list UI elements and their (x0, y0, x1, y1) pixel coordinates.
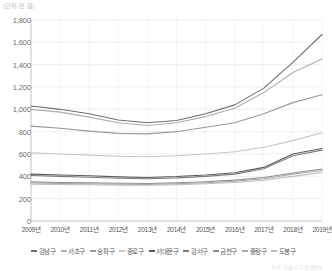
legend-label: 금천구 (220, 246, 237, 256)
x-axis-tick-label: 2012년 (109, 224, 128, 234)
legend-line-icon (119, 250, 125, 251)
legend-item[interactable]: 강남구 (31, 246, 55, 256)
legend-line-icon (90, 250, 96, 251)
x-axis-tick-label: 2010년 (51, 224, 70, 234)
legend-label: 강남구 (39, 246, 56, 256)
legend-label: 종로구 (127, 246, 144, 256)
legend-item[interactable]: 서초구 (61, 246, 85, 256)
legend-item[interactable]: 강서구 (183, 246, 207, 256)
x-axis-tick-label: 2019년 (312, 224, 331, 234)
legend-line-icon (271, 250, 277, 251)
legend-label: 서초구 (68, 246, 85, 256)
legend-line-icon (183, 250, 189, 251)
x-axis-tick-label: 2009년 (21, 224, 40, 234)
chart-legend: 강남구서초구송파구종로구서대문구강서구금천구중랑구도봉구 (0, 244, 327, 258)
x-axis-tick-label: 2018년 (283, 224, 302, 234)
source-label: 자료: 서울시 부동산정보 (271, 263, 323, 270)
x-axis-tick-label: 2017년 (254, 224, 273, 234)
x-axis-tick-label: 2014년 (167, 224, 186, 234)
legend-item[interactable]: 서대문구 (149, 246, 179, 256)
x-axis-ticks: 2009년2010년2011년2012년2013년2014년2015년2016년… (0, 224, 327, 236)
legend-line-icon (149, 250, 155, 251)
legend-line-icon (213, 250, 219, 251)
legend-item[interactable]: 중랑구 (242, 246, 266, 256)
legend-label: 송파구 (97, 246, 114, 256)
x-axis-tick-label: 2011년 (80, 224, 99, 234)
legend-line-icon (61, 250, 67, 251)
legend-item[interactable]: 금천구 (213, 246, 237, 256)
legend-line-icon (31, 250, 37, 251)
legend-label: 서대문구 (156, 246, 178, 256)
legend-label: 도봉구 (279, 246, 296, 256)
x-axis-tick-label: 2015년 (196, 224, 215, 234)
x-axis-tick-label: 2013년 (138, 224, 157, 234)
legend-item[interactable]: 도봉구 (271, 246, 295, 256)
legend-label: 중랑구 (250, 246, 267, 256)
legend-item[interactable]: 종로구 (119, 246, 143, 256)
legend-line-icon (242, 250, 248, 251)
x-axis-tick-label: 2016년 (225, 224, 244, 234)
legend-item[interactable]: 송파구 (90, 246, 114, 256)
legend-label: 강서구 (191, 246, 208, 256)
